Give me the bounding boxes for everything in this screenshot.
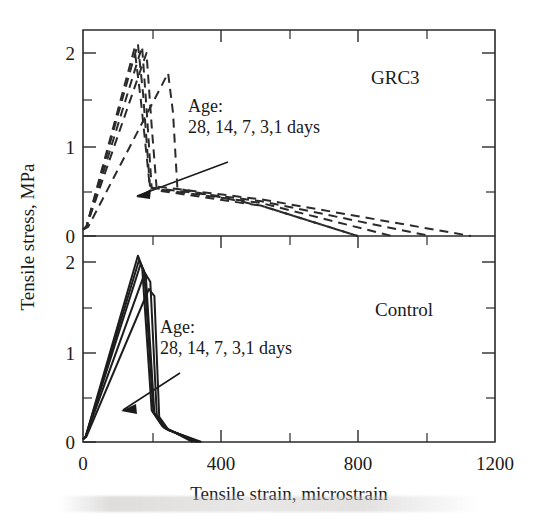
curve-grc3-7days	[83, 47, 392, 236]
panel-grc3-ytick-1: 1	[66, 137, 76, 158]
panel-grc3-ytick-2: 2	[66, 43, 76, 64]
panel-grc3-annotation-line1: Age:	[188, 96, 223, 116]
panel-control-label: Control	[375, 299, 433, 320]
panel-control-ytick-0: 0	[66, 432, 76, 453]
panel-grc3-annotation-line2: 28, 14, 7, 3,1 days	[188, 117, 320, 137]
panel-grc3-ytick-0: 0	[66, 226, 76, 247]
stress-strain-figure: 0 1 2 GRC3 Age: 28, 14, 7, 3,1 days	[0, 0, 533, 528]
scan-artifact-smudge	[60, 496, 480, 512]
xtick-label-800: 800	[344, 453, 373, 474]
y-axis-title: Tensile stress, MPa	[17, 163, 38, 311]
figure-container: 0 1 2 GRC3 Age: 28, 14, 7, 3,1 days	[0, 0, 533, 528]
xtick-label-400: 400	[207, 453, 236, 474]
curve-control-1day	[83, 289, 201, 442]
panel-grc3-xticks-top	[153, 30, 427, 42]
panel-control-ytick-1: 1	[66, 343, 76, 364]
panel-grc3: 0 1 2 GRC3 Age: 28, 14, 7, 3,1 days	[66, 30, 496, 247]
panel-control-annotation-line1: Age:	[160, 317, 195, 337]
curve-grc3-3days	[83, 53, 358, 236]
xtick-label-0: 0	[78, 453, 88, 474]
panel-control-annotation-line2: 28, 14, 7, 3,1 days	[160, 338, 292, 358]
panel-control: 0 1 2 Control Age: 28, 14, 7, 3,1 days	[66, 236, 515, 474]
panel-control-ytick-2: 2	[66, 252, 76, 273]
xtick-label-1200: 1200	[476, 453, 514, 474]
panel-grc3-label: GRC3	[371, 67, 420, 88]
